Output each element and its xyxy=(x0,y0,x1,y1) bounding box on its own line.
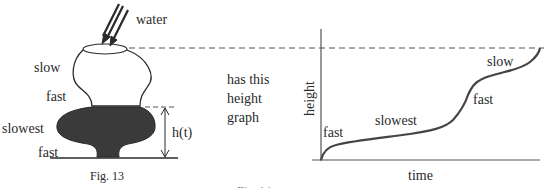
water-inflow-arrows-icon xyxy=(102,4,128,46)
height-arrow xyxy=(161,108,169,157)
graph-label-slowest: slowest xyxy=(375,113,417,128)
diagram-canvas: water slow fast slowest fast h(t) Fig. 1… xyxy=(0,0,544,188)
height-function-label: h(t) xyxy=(172,125,193,141)
vessel-water-fill xyxy=(57,107,155,157)
x-axis-label: time xyxy=(408,168,433,183)
graph-label-slow: slow xyxy=(487,54,514,69)
graph-label-fast-start: fast xyxy=(323,125,343,140)
vessel-outline xyxy=(73,50,151,106)
rate-label-slow: slow xyxy=(34,60,61,75)
y-axis-label: height xyxy=(302,81,317,116)
rate-label-fast-lower: fast xyxy=(38,145,58,160)
vessel-opening xyxy=(83,44,127,54)
connector-text-line1: has this xyxy=(227,72,269,87)
connector-text-line3: graph xyxy=(227,110,259,125)
partial-caption: Fig. 14 xyxy=(237,184,271,188)
figure-caption: Fig. 13 xyxy=(90,169,124,183)
rate-label-slowest: slowest xyxy=(2,121,44,136)
water-label: water xyxy=(136,12,167,27)
rate-label-fast-upper: fast xyxy=(46,89,66,104)
graph-label-fast-mid: fast xyxy=(473,92,493,107)
connector-text-line2: height xyxy=(227,91,262,106)
